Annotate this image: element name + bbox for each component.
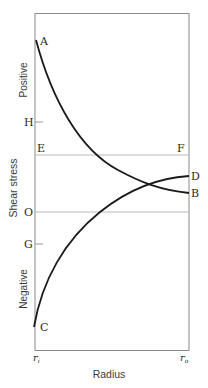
x-axis-label: Radius bbox=[93, 368, 126, 380]
curve-CD bbox=[34, 176, 189, 327]
label-C: C bbox=[40, 321, 48, 334]
plot-frame bbox=[35, 14, 189, 351]
shear-stress-diagram: A B C D E F H O G Positive Shear stress … bbox=[0, 0, 208, 388]
tick-outer-radius: ro bbox=[180, 352, 189, 364]
y-axis-label: Shear stress bbox=[7, 159, 19, 218]
label-negative: Negative bbox=[18, 269, 29, 309]
label-G: G bbox=[24, 238, 33, 251]
label-O: O bbox=[24, 206, 33, 219]
label-H: H bbox=[24, 116, 34, 129]
label-B: B bbox=[191, 187, 199, 200]
label-E: E bbox=[37, 142, 45, 155]
label-A: A bbox=[39, 35, 49, 48]
label-positive: Positive bbox=[18, 62, 29, 97]
label-F: F bbox=[177, 142, 185, 155]
curve-AB bbox=[36, 40, 189, 193]
tick-inner-radius: ri bbox=[33, 352, 40, 364]
label-D: D bbox=[191, 170, 200, 183]
